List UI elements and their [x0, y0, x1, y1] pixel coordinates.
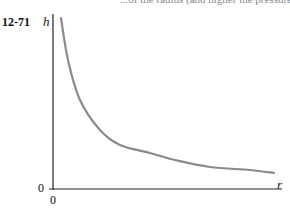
data-curve: [61, 18, 274, 173]
chart-plot: [0, 0, 290, 210]
